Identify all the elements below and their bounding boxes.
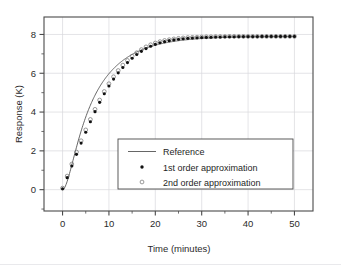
data-point-1st-order [107, 85, 110, 88]
y-tick-label: 8 [31, 29, 36, 40]
data-point-1st-order [242, 35, 245, 38]
data-point-1st-order [237, 35, 240, 38]
data-point-1st-order [84, 131, 87, 134]
data-point-1st-order [66, 176, 69, 179]
chart-legend: Reference 1st order approximation 2nd or… [118, 139, 293, 189]
data-point-1st-order [93, 110, 96, 113]
data-point-1st-order [121, 66, 124, 69]
x-tick-label: 30 [196, 218, 207, 229]
data-point-1st-order [126, 61, 129, 64]
x-tick-label: 0 [60, 218, 65, 229]
data-point-1st-order [80, 142, 83, 145]
data-point-1st-order [191, 36, 194, 39]
y-tick-label: 0 [31, 184, 36, 195]
legend-marker-1st-order [140, 165, 143, 168]
data-point-1st-order [284, 35, 287, 38]
data-point-1st-order [98, 101, 101, 104]
y-tick-label: 4 [31, 106, 36, 117]
y-tick-label: 2 [31, 145, 36, 156]
data-point-1st-order [158, 41, 161, 44]
data-point-1st-order [177, 38, 180, 41]
data-point-1st-order [205, 36, 208, 39]
data-point-1st-order [112, 78, 115, 81]
data-point-1st-order [270, 35, 273, 38]
data-point-1st-order [256, 35, 259, 38]
data-point-1st-order [274, 35, 277, 38]
data-point-1st-order [103, 92, 106, 95]
data-point-1st-order [154, 43, 157, 46]
data-point-1st-order [247, 35, 250, 38]
data-point-1st-order [233, 35, 236, 38]
x-axis-title: Time (minutes) [148, 243, 211, 254]
data-point-1st-order [223, 35, 226, 38]
data-point-1st-order [200, 36, 203, 39]
response-vs-time-chart: 01020304050 02468 Time (minutes) Respons… [0, 0, 341, 265]
x-tick-label: 40 [243, 218, 254, 229]
data-point-1st-order [70, 164, 73, 167]
data-point-1st-order [131, 57, 134, 60]
data-point-1st-order [219, 35, 222, 38]
data-point-1st-order [228, 35, 231, 38]
data-point-1st-order [209, 36, 212, 39]
x-tick-label: 50 [289, 218, 300, 229]
data-point-1st-order [117, 71, 120, 74]
data-point-1st-order [140, 50, 143, 53]
data-point-1st-order [260, 35, 263, 38]
legend-label-reference: Reference [163, 147, 205, 157]
chart-figure: 01020304050 02468 Time (minutes) Respons… [0, 0, 341, 265]
data-point-1st-order [214, 35, 217, 38]
data-point-1st-order [265, 35, 268, 38]
legend-label-2nd-order: 2nd order approximation [163, 178, 261, 188]
data-point-1st-order [89, 120, 92, 123]
data-point-1st-order [279, 35, 282, 38]
data-point-1st-order [288, 35, 291, 38]
y-axis-title: Response (K) [13, 85, 24, 143]
y-tick-label: 6 [31, 68, 36, 79]
x-tick-label: 20 [150, 218, 161, 229]
data-point-1st-order [186, 37, 189, 40]
data-point-1st-order [182, 37, 185, 40]
data-point-1st-order [293, 35, 296, 38]
data-point-1st-order [135, 53, 138, 56]
data-point-1st-order [75, 153, 78, 156]
data-point-1st-order [144, 47, 147, 50]
data-point-1st-order [251, 35, 254, 38]
data-point-1st-order [168, 39, 171, 42]
data-point-1st-order [149, 45, 152, 48]
legend-label-1st-order: 1st order approximation [163, 163, 258, 173]
data-point-1st-order [172, 38, 175, 41]
data-point-1st-order [196, 36, 199, 39]
data-point-1st-order [61, 187, 64, 190]
data-point-1st-order [163, 40, 166, 43]
x-tick-label: 10 [104, 218, 115, 229]
